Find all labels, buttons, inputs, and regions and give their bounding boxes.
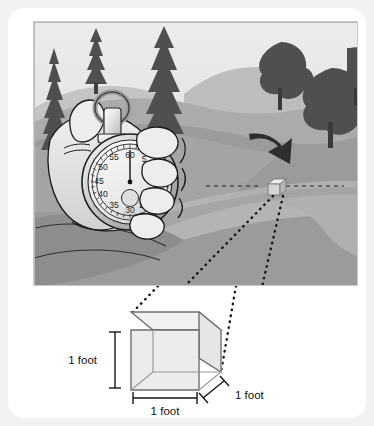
- label-height: 1 foot: [68, 354, 98, 366]
- cubic-foot-diagram: 1 foot 1 foot 1 foot: [33, 286, 358, 418]
- white-card: 60 5 25 30 35 40 45 50 55: [8, 8, 366, 418]
- dimension-width: [133, 392, 197, 404]
- dial-number-35: 35: [109, 200, 119, 210]
- finger-2: [142, 159, 178, 187]
- label-width: 1 foot: [151, 405, 181, 417]
- callout-dotted-left-lower: [133, 286, 158, 312]
- finger-1: [137, 127, 178, 158]
- dial-number-45: 45: [94, 176, 104, 186]
- landscape-photo: 60 5 25 30 35 40 45 50 55: [33, 21, 358, 286]
- dimension-height: [109, 332, 121, 388]
- finger-3: [140, 188, 174, 214]
- finger-4: [130, 214, 164, 239]
- figure-root: 60 5 25 30 35 40 45 50 55: [0, 0, 374, 426]
- dial-number-50: 50: [98, 162, 108, 172]
- label-depth: 1 foot: [235, 389, 265, 401]
- callout-dotted-right-lower: [221, 286, 236, 372]
- cube-right-face: [199, 312, 221, 372]
- road-reference-cube: [268, 179, 286, 195]
- dial-number-40: 40: [98, 189, 108, 199]
- dial-number-55: 55: [109, 152, 119, 162]
- dimension-depth: [199, 376, 229, 403]
- stopwatch-needle-hub: [128, 180, 133, 185]
- stopwatch-subdial: [122, 190, 139, 207]
- cube: [131, 312, 221, 390]
